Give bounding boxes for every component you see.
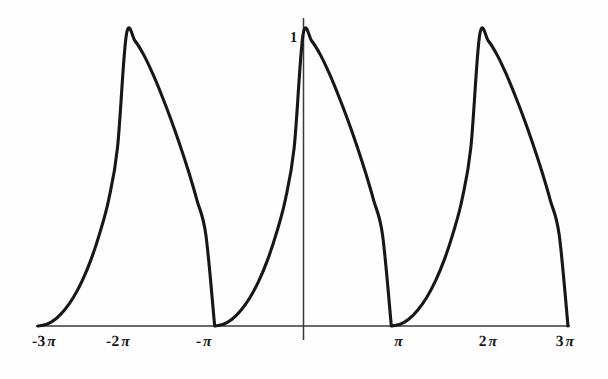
x-tick-label-minus-3pi: -3π <box>32 333 56 351</box>
x-tick-label-pi: π <box>393 333 403 351</box>
x-tick-label-2pi: 2π <box>479 333 498 351</box>
figure-root: -3π -2π -π π 2π 3π 1 <box>0 0 608 379</box>
x-tick-label-minus-2pi: -2π <box>106 333 130 351</box>
x-tick-label-3pi: 3π <box>556 333 575 351</box>
function-plot-canvas <box>0 0 608 379</box>
y-axis-value-label-one: 1 <box>290 29 297 46</box>
x-tick-label-minus-pi: -π <box>196 333 212 351</box>
